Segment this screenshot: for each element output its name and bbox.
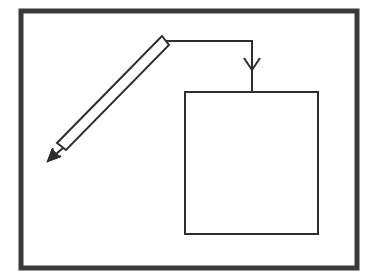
diagram-canvas: Schematic line diagram Hand-drawn style …: [0, 0, 376, 280]
schematic-diagram: [0, 0, 376, 280]
target-box[interactable]: [185, 92, 318, 234]
